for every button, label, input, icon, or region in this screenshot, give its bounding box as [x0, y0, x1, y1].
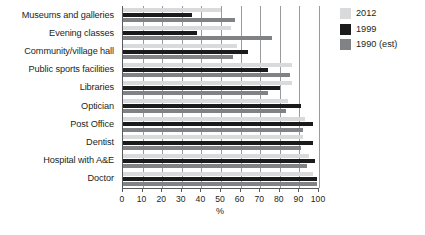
bar	[123, 81, 292, 85]
legend: 2012 1999 1990 (est)	[340, 8, 397, 50]
tick-30	[181, 188, 182, 192]
tick-label-90: 90	[294, 193, 304, 205]
bar-group	[123, 79, 319, 97]
bar-group	[123, 115, 319, 133]
horizontal-bar-chart: Museums and galleries Evening classes Co…	[0, 0, 425, 235]
bar	[123, 26, 231, 30]
bar	[123, 31, 197, 35]
bar	[123, 68, 268, 72]
bar	[123, 117, 305, 121]
tick-label-80: 80	[274, 193, 284, 205]
tick-label-40: 40	[196, 193, 206, 205]
tick-label-60: 60	[235, 193, 245, 205]
category-label-optician: Optician	[0, 97, 118, 115]
bar	[123, 13, 192, 17]
category-label-museums-and-galleries: Museums and galleries	[0, 6, 118, 24]
bar	[123, 177, 317, 181]
category-label-evening-classes: Evening classes	[0, 24, 118, 42]
category-label-hospital-with-ae: Hospital with A&E	[0, 152, 118, 170]
tick-40	[200, 188, 201, 192]
tick-80	[279, 188, 280, 192]
bar	[123, 154, 309, 158]
category-label-libraries: Libraries	[0, 79, 118, 97]
bar	[123, 50, 248, 54]
bar	[123, 141, 313, 145]
tick-50	[220, 188, 221, 192]
tick-label-0: 0	[120, 193, 125, 205]
legend-item-1999: 1999	[340, 24, 397, 35]
legend-swatch-1990-icon	[340, 39, 351, 50]
category-label-doctor: Doctor	[0, 170, 118, 188]
bar	[123, 63, 292, 67]
bar-group	[123, 42, 319, 60]
legend-label-2012: 2012	[356, 8, 376, 19]
legend-swatch-2012-icon	[340, 8, 351, 19]
category-axis-labels: Museums and galleries Evening classes Co…	[0, 6, 118, 188]
bar-group	[123, 133, 319, 151]
tick-20	[161, 188, 162, 192]
bar	[123, 8, 221, 12]
tick-label-100: 100	[311, 193, 325, 205]
bar-group	[123, 170, 319, 188]
bar	[123, 104, 301, 108]
x-axis-tick-labels: 0102030405060708090100	[122, 193, 318, 205]
tick-label-10: 10	[137, 193, 147, 205]
category-label-post-office: Post Office	[0, 115, 118, 133]
legend-item-1990: 1990 (est)	[340, 39, 397, 50]
legend-label-1999: 1999	[356, 24, 376, 35]
bar-group	[123, 24, 319, 42]
tick-0	[122, 188, 123, 192]
legend-swatch-1999-icon	[340, 24, 351, 35]
tick-60	[240, 188, 241, 192]
legend-label-1990-est: 1990 (est)	[356, 39, 397, 50]
bar	[123, 73, 290, 77]
category-label-community-village-hall: Community/village hall	[0, 42, 118, 60]
tick-100	[318, 188, 319, 192]
plot-area	[122, 6, 319, 188]
bar	[123, 109, 286, 113]
tick-label-70: 70	[254, 193, 264, 205]
bar-group	[123, 61, 319, 79]
bar	[123, 99, 288, 103]
bar	[123, 122, 313, 126]
bar	[123, 172, 313, 176]
tick-label-30: 30	[176, 193, 186, 205]
tick-70	[259, 188, 260, 192]
bar	[123, 91, 268, 95]
tick-90	[298, 188, 299, 192]
bar	[123, 18, 235, 22]
x-axis-title: %	[122, 206, 318, 216]
bar	[123, 86, 280, 90]
bar	[123, 164, 307, 168]
gridline-100	[319, 6, 320, 188]
bar	[123, 128, 303, 132]
bar	[123, 55, 233, 59]
tick-label-20: 20	[156, 193, 166, 205]
bar-groups	[123, 6, 319, 188]
bar	[123, 36, 272, 40]
bar	[123, 135, 303, 139]
bar-group	[123, 97, 319, 115]
bar	[123, 44, 237, 48]
bar	[123, 182, 317, 186]
bar-group	[123, 152, 319, 170]
category-label-public-sports-facilities: Public sports facilities	[0, 61, 118, 79]
bar	[123, 146, 301, 150]
x-axis-ticks	[122, 188, 318, 192]
bar	[123, 159, 315, 163]
bar-group	[123, 6, 319, 24]
tick-10	[142, 188, 143, 192]
tick-label-50: 50	[215, 193, 225, 205]
legend-item-2012: 2012	[340, 8, 397, 19]
category-label-dentist: Dentist	[0, 133, 118, 151]
